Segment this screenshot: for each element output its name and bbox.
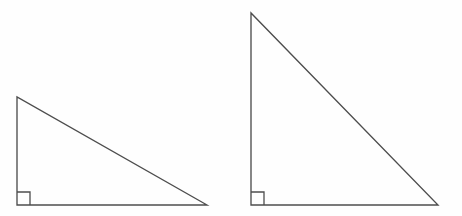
right-triangle — [251, 13, 438, 205]
left-right-angle-marker-icon — [17, 192, 30, 205]
right-triangle-group — [251, 13, 438, 205]
left-triangle — [17, 97, 207, 205]
triangles-diagram — [0, 0, 462, 216]
right-right-angle-marker-icon — [251, 192, 264, 205]
figure-canvas — [0, 0, 462, 216]
left-triangle-group — [17, 97, 207, 205]
